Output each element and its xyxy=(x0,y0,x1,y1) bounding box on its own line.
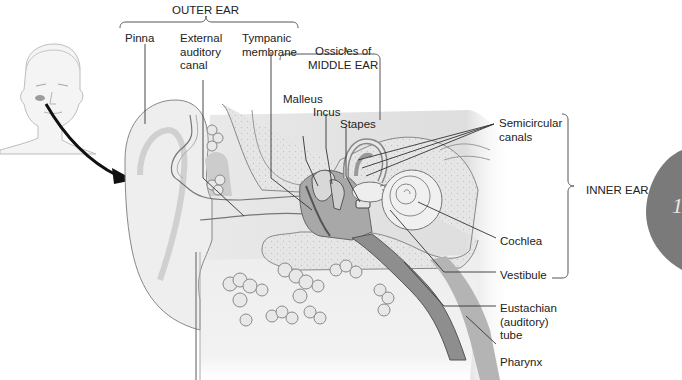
malleus-label: Malleus xyxy=(283,93,323,107)
page-badge-text: 1 xyxy=(672,194,682,218)
pharynx-label: Pharynx xyxy=(500,356,542,370)
vestibule-label: Vestibule xyxy=(500,269,547,283)
stapes-label: Stapes xyxy=(340,118,376,132)
tympanic-membrane-label: Tympanic membrane xyxy=(242,32,297,59)
incus-label: Incus xyxy=(313,106,341,120)
outer-ear-brace xyxy=(120,16,298,28)
eustachian-tube-label: Eustachian (auditory) tube xyxy=(500,302,557,343)
head-thumbnail xyxy=(0,44,96,154)
external-auditory-canal-label: External auditory canal xyxy=(180,32,222,73)
ear-cross-section xyxy=(125,100,513,380)
middle-ear-heading: Ossicles of MIDDLE EAR xyxy=(308,45,378,72)
semicircular-canals-label: Semicircular canals xyxy=(499,117,562,144)
cochlea-label: Cochlea xyxy=(500,235,542,249)
ear-anatomy-diagram: OUTER EAR Pinna External auditory canal … xyxy=(0,0,682,380)
pinna-label: Pinna xyxy=(125,32,154,46)
inner-ear-heading: INNER EAR xyxy=(586,184,649,198)
outer-ear-heading: OUTER EAR xyxy=(172,4,239,18)
